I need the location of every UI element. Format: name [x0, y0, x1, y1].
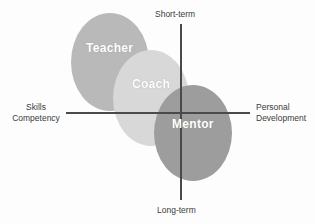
ellipse-label-coach: Coach	[132, 77, 170, 91]
horizontal-axis-line	[66, 112, 250, 114]
axis-label-personal-line2: Development	[256, 113, 306, 124]
vertical-axis-line	[180, 24, 182, 200]
diagram-canvas: Teacher Coach Mentor Short-term Long-ter…	[0, 0, 315, 224]
axis-label-skills-competency: Skills Competency	[8, 102, 64, 124]
axis-label-personal-development: Personal Development	[256, 102, 306, 124]
axis-label-personal-line1: Personal	[256, 102, 306, 113]
ellipse-label-mentor: Mentor	[172, 117, 214, 131]
ellipse-label-teacher: Teacher	[86, 41, 133, 55]
axis-label-short-term: Short-term	[155, 9, 195, 20]
axis-label-skills-line2: Competency	[8, 113, 64, 124]
ellipse-mentor	[154, 85, 232, 181]
axis-label-long-term: Long-term	[157, 205, 196, 216]
axis-label-skills-line1: Skills	[8, 102, 64, 113]
